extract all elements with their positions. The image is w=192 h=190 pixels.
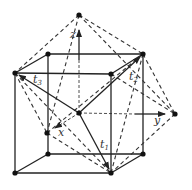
vector-t1: [79, 113, 109, 169]
y-label: y: [153, 114, 161, 127]
lattice-points: [12, 12, 177, 175]
crystal-lattice-diagram: z y x t1 t2 t3: [0, 0, 192, 190]
z-label: z: [69, 28, 76, 41]
vector-t2: [79, 57, 140, 113]
x-label: x: [58, 126, 65, 139]
octahedron-edges: [15, 15, 175, 173]
vector-t3: [19, 75, 79, 113]
t3-label: t3: [33, 73, 42, 87]
y-axis-dashed: [79, 113, 135, 114]
t1-label: t1: [100, 138, 109, 152]
